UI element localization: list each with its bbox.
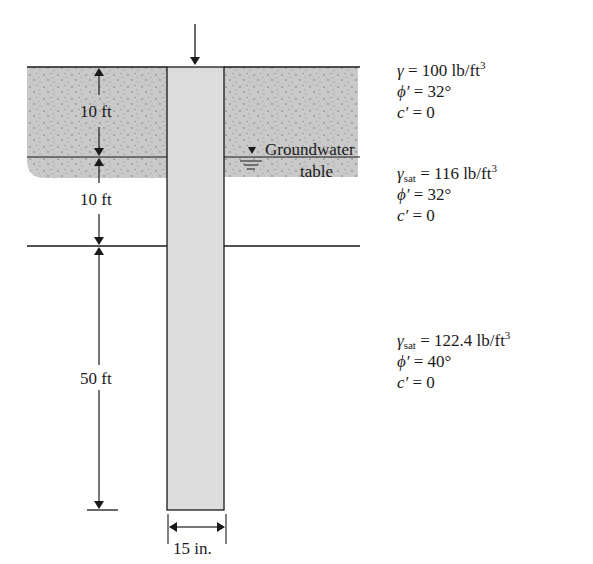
layer1-thickness-label: 10 ft	[80, 103, 112, 120]
groundwater-table-label: table	[300, 163, 333, 180]
pile-diameter-label: 15 in.	[173, 540, 212, 557]
layer2-unit-weight: γsat = 116 lb/ft3	[397, 163, 497, 184]
soil-band-left	[27, 67, 167, 178]
layer3-thickness-label: 50 ft	[80, 370, 112, 387]
layer3-properties: γsat = 122.4 lb/ft3 ϕ′ = 40° c′ = 0	[397, 330, 510, 393]
layer2-friction-angle: ϕ′ = 32°	[397, 184, 497, 205]
layer1-properties: γ = 100 lb/ft3 ϕ′ = 32° c′ = 0	[397, 60, 485, 123]
layer3-friction-angle: ϕ′ = 40°	[397, 351, 510, 372]
layer1-friction-angle: ϕ′ = 32°	[397, 81, 485, 102]
layer1-cohesion: c′ = 0	[397, 102, 485, 123]
groundwater-label: Groundwater	[265, 141, 355, 158]
layer1-unit-weight: γ = 100 lb/ft3	[397, 60, 485, 81]
layer2-thickness-label: 10 ft	[80, 191, 112, 208]
pile	[167, 67, 224, 510]
layer3-unit-weight: γsat = 122.4 lb/ft3	[397, 330, 510, 351]
pile-diagram	[0, 0, 593, 564]
layer2-cohesion: c′ = 0	[397, 205, 497, 226]
layer2-properties: γsat = 116 lb/ft3 ϕ′ = 32° c′ = 0	[397, 163, 497, 226]
layer3-cohesion: c′ = 0	[397, 372, 510, 393]
